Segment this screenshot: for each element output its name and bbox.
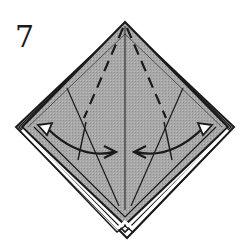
origami-diagram xyxy=(0,0,251,244)
